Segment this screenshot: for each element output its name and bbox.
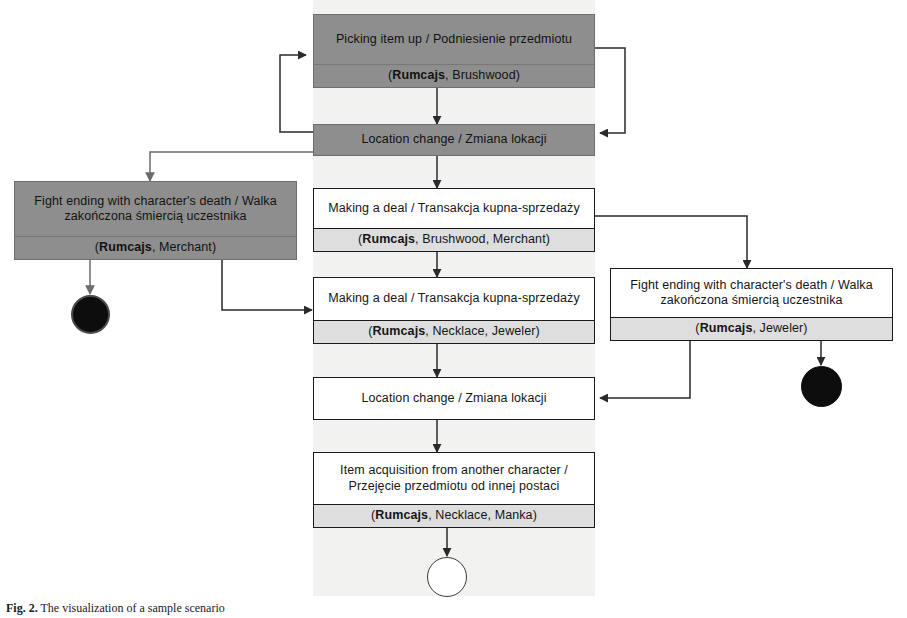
node-picking-item-up[interactable]: Picking item up / Podniesienie przedmiot… [313,14,595,88]
node-title: Item acquisition from another character … [314,453,594,504]
node-location-change-top[interactable]: Location change / Zmiana lokacji [313,124,595,156]
node-title: Location change / Zmiana lokacji [314,125,594,155]
figure-caption: Fig. 2. The visualization of a sample sc… [6,601,896,618]
node-title: Making a deal / Transakcja kupna-sprzeda… [314,278,594,320]
end-node-merchant [71,295,110,334]
node-title: Picking item up / Podniesienie przedmiot… [314,15,594,64]
edge-fight-jeweler-to-location-bottom [600,341,690,398]
edge-location-to-fight-merchant [150,152,313,181]
node-item-acquisition[interactable]: Item acquisition from another character … [313,452,595,528]
edge-fight-merchant-to-deal-jeweler [222,260,312,310]
node-title: Fight ending with character's death / Wa… [15,182,296,236]
node-participants: (Rumcajs, Necklace, Jeweler) [314,320,594,343]
node-participants: (Rumcajs, Brushwood, Merchant) [314,228,594,251]
end-node-jeweler [801,366,842,407]
participants-rest: , Brushwood, Merchant) [415,232,550,246]
edge-picking-loop-right [595,48,625,133]
participants-rest: , Jeweler) [752,321,807,335]
participants-rest: , Merchant) [152,240,216,254]
participants-rest: , Brushwood) [445,68,520,82]
node-participants: (Rumcajs, Merchant) [15,236,296,259]
node-making-deal-jeweler[interactable]: Making a deal / Transakcja kupna-sprzeda… [313,277,595,344]
edge-deal-merchant-to-fight-jeweler [595,216,747,268]
node-title: Making a deal / Transakcja kupna-sprzeda… [314,189,594,228]
node-making-deal-merchant[interactable]: Making a deal / Transakcja kupna-sprzeda… [313,188,595,252]
edge-location-loop-left [280,55,313,132]
participants-bold: Rumcajs [375,508,428,522]
node-title: Fight ending with character's death / Wa… [611,269,892,317]
diagram-canvas: Picking item up / Podniesienie przedmiot… [0,0,907,618]
participants-bold: Rumcajs [99,240,152,254]
node-title: Location change / Zmiana lokacji [314,378,594,419]
caption-label: Fig. 2. [6,601,38,615]
end-node-final [427,557,467,597]
participants-bold: Rumcajs [392,68,445,82]
participants-bold: Rumcajs [362,232,415,246]
node-participants: (Rumcajs, Brushwood) [314,64,594,87]
node-participants: (Rumcajs, Necklace, Manka) [314,504,594,527]
caption-text: The visualization of a sample scenario [40,601,224,615]
participants-bold: Rumcajs [700,321,753,335]
participants-rest: , Necklace, Jeweler) [425,324,540,338]
node-location-change-bottom[interactable]: Location change / Zmiana lokacji [313,377,595,420]
node-fight-death-jeweler[interactable]: Fight ending with character's death / Wa… [610,268,893,341]
node-fight-death-merchant[interactable]: Fight ending with character's death / Wa… [14,181,297,260]
participants-bold: Rumcajs [372,324,425,338]
node-participants: (Rumcajs, Jeweler) [611,317,892,340]
participants-rest: , Necklace, Manka) [428,508,537,522]
